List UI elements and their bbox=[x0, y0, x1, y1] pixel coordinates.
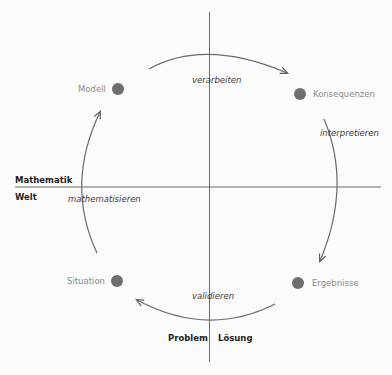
edge-label-interpretieren: interpretieren bbox=[320, 129, 379, 138]
axis-label-problem: Problem bbox=[168, 334, 208, 343]
node-label-ergebnisse: Ergebnisse bbox=[312, 279, 359, 288]
modelling-cycle-diagram: Modell Konsequenzen Ergebnisse Situation… bbox=[0, 0, 392, 375]
edge-label-verarbeiten: verarbeiten bbox=[192, 76, 241, 85]
axis-label-loesung: Lösung bbox=[218, 334, 253, 343]
node-situation-dot bbox=[111, 275, 123, 287]
domain-label-welt: Welt bbox=[15, 193, 37, 202]
arc-interpretieren bbox=[320, 119, 337, 261]
node-label-situation: Situation bbox=[67, 277, 105, 286]
diagram-svg bbox=[0, 0, 392, 375]
arc-validieren bbox=[137, 300, 275, 320]
node-konsequenzen-dot bbox=[294, 88, 306, 100]
edge-label-validieren: validieren bbox=[192, 292, 234, 301]
edge-label-mathematisieren: mathematisieren bbox=[68, 195, 141, 204]
arc-mathematisieren bbox=[82, 112, 100, 253]
node-modell-dot bbox=[112, 83, 124, 95]
node-label-modell: Modell bbox=[78, 85, 106, 94]
node-label-konsequenzen: Konsequenzen bbox=[313, 90, 375, 99]
arc-verarbeiten bbox=[149, 54, 287, 73]
domain-label-mathematik: Mathematik bbox=[15, 176, 72, 185]
node-ergebnisse-dot bbox=[292, 277, 304, 289]
